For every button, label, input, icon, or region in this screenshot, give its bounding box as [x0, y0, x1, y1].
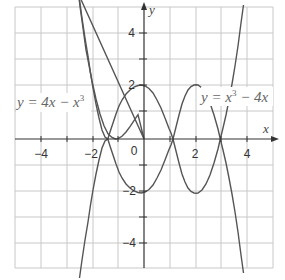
- left-equation-label: y = 4x − x3: [15, 93, 85, 110]
- x-tick-label: −2: [84, 147, 98, 161]
- y-tick-label: −2: [122, 184, 136, 198]
- cubic-graph: −4 −2 0 2 4 4 2 −2 −4 x y y = 4x − x3 y …: [0, 0, 285, 280]
- y-tick-label: 4: [128, 26, 135, 40]
- curve-4x-minus-x3: [79, 0, 145, 139]
- curve-4x-minus-x3: [80, 0, 244, 273]
- y-axis-label: y: [147, 2, 155, 17]
- x-tick-label: 2: [192, 147, 199, 161]
- x-tick-label: −4: [34, 147, 48, 161]
- curve-x3-minus-4x: [80, 5, 244, 278]
- x-tick-label: 4: [244, 147, 251, 161]
- y-tick-label: −4: [122, 236, 136, 250]
- x-axis-label: x: [262, 121, 269, 136]
- x-axis-arrow-icon: [271, 136, 279, 142]
- y-tick-label: 2: [128, 78, 135, 92]
- origin-label: 0: [131, 144, 138, 158]
- y-axis-arrow-icon: [141, 2, 147, 10]
